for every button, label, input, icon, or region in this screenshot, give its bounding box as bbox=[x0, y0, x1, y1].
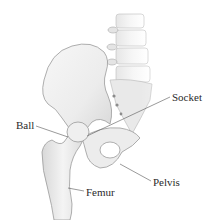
label-ball: Ball bbox=[16, 120, 34, 131]
label-socket: Socket bbox=[172, 92, 202, 103]
femur-bone bbox=[42, 130, 84, 221]
label-femur: Femur bbox=[86, 187, 115, 198]
label-pelvis: Pelvis bbox=[153, 177, 180, 188]
hip-joint-illustration: Socket Ball Pelvis Femur bbox=[0, 0, 212, 220]
obturator-foramen bbox=[100, 142, 120, 158]
femoral-head bbox=[67, 122, 89, 142]
